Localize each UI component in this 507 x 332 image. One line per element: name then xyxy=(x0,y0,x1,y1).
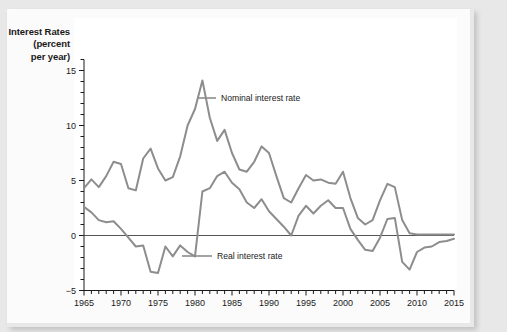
svg-text:1975: 1975 xyxy=(148,298,168,308)
svg-text:5: 5 xyxy=(71,176,76,186)
svg-text:1980: 1980 xyxy=(185,298,205,308)
svg-text:−5: −5 xyxy=(66,286,76,296)
nominal-annotation-label: Nominal interest rate xyxy=(221,93,301,103)
x-axis-ticks xyxy=(84,291,454,296)
svg-text:1990: 1990 xyxy=(259,298,279,308)
svg-text:1965: 1965 xyxy=(74,298,94,308)
svg-text:15: 15 xyxy=(66,66,76,76)
y-axis-ticks xyxy=(79,60,84,291)
x-axis-tick-labels: 1965197019751980198519901995200020052010… xyxy=(74,298,464,308)
svg-text:2015: 2015 xyxy=(444,298,464,308)
svg-text:1985: 1985 xyxy=(222,298,242,308)
y-axis-tick-labels: −5051015 xyxy=(66,66,76,296)
svg-text:0: 0 xyxy=(71,231,76,241)
svg-text:1970: 1970 xyxy=(111,298,131,308)
page-background: Interest Rates (percent per year) −50510… xyxy=(0,0,507,332)
svg-text:2010: 2010 xyxy=(407,298,427,308)
svg-text:1995: 1995 xyxy=(296,298,316,308)
svg-text:10: 10 xyxy=(66,121,76,131)
svg-text:2000: 2000 xyxy=(333,298,353,308)
svg-text:2005: 2005 xyxy=(370,298,390,308)
real-annotation-label: Real interest rate xyxy=(217,251,283,261)
interest-rates-line-chart: −5051015 1965197019751980198519901995200… xyxy=(0,0,507,332)
